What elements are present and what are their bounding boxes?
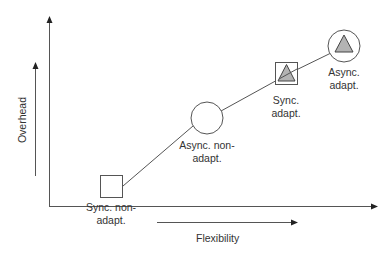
- x-axis-arrowhead-icon: [371, 204, 378, 210]
- async-non-adapt-circle-icon: [191, 102, 223, 134]
- y-axis-arrowhead-icon: [47, 16, 53, 23]
- async-non-adapt-label-line1: Async. non-: [167, 139, 247, 152]
- y-axis-label: Overhead: [16, 95, 28, 145]
- overhead-arrowhead-icon: [33, 62, 39, 69]
- async-adapt-label-line1: Async.: [319, 66, 369, 79]
- async-adapt-label: Async. adapt.: [319, 66, 369, 92]
- sync-non-adapt-label-line1: Sync. non-: [71, 201, 151, 214]
- async-non-adapt-label-line2: adapt.: [167, 152, 247, 165]
- flexibility-arrowhead-icon: [291, 220, 298, 226]
- x-axis-label: Flexibility: [196, 232, 239, 244]
- sync-adapt-label-line2: adapt.: [261, 107, 311, 120]
- async-non-adapt-label: Async. non- adapt.: [167, 139, 247, 165]
- async-adapt-label-line2: adapt.: [319, 79, 369, 92]
- diagram-canvas: [0, 0, 391, 255]
- sync-non-adapt-label-line2: adapt.: [71, 214, 151, 227]
- sync-non-adapt-label: Sync. non- adapt.: [71, 201, 151, 227]
- sync-non-adapt-square-icon: [101, 176, 123, 198]
- sync-adapt-label: Sync. adapt.: [261, 94, 311, 120]
- sync-adapt-label-line1: Sync.: [261, 94, 311, 107]
